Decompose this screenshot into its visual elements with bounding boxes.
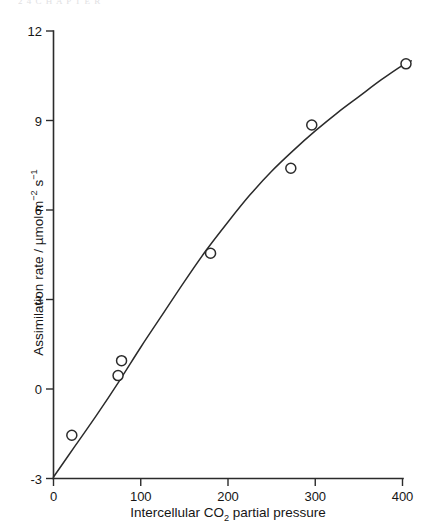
fitted-curve <box>54 61 412 477</box>
x-axis-title: Intercellular CO2 partial pressure <box>53 505 403 520</box>
figure-root: 2 4 C H A P T E R -3036912 0100200300400… <box>0 0 424 528</box>
data-point-2 <box>117 356 127 366</box>
data-point-0 <box>67 430 77 440</box>
x-tick-label-300: 300 <box>304 489 326 504</box>
y-tick-label--3: -3 <box>8 471 42 486</box>
data-point-5 <box>307 120 317 130</box>
x-tick-label-400: 400 <box>392 489 414 504</box>
x-tick-label-0: 0 <box>50 489 57 504</box>
y-tick-label-9: 9 <box>8 113 42 128</box>
y-axis-title: Assimilation rate / µmol m−2 s−1 <box>31 133 46 393</box>
y-ticks-group <box>46 31 54 479</box>
data-point-3 <box>206 248 216 258</box>
data-point-4 <box>286 163 296 173</box>
x-tick-label-200: 200 <box>217 489 239 504</box>
x-ticks-group <box>54 479 403 487</box>
y-tick-label-12: 12 <box>8 24 42 39</box>
axes-group <box>53 31 403 479</box>
data-point-1 <box>113 371 123 381</box>
x-tick-label-100: 100 <box>130 489 152 504</box>
scatter-plot-canvas <box>0 0 424 528</box>
data-point-6 <box>401 59 411 69</box>
